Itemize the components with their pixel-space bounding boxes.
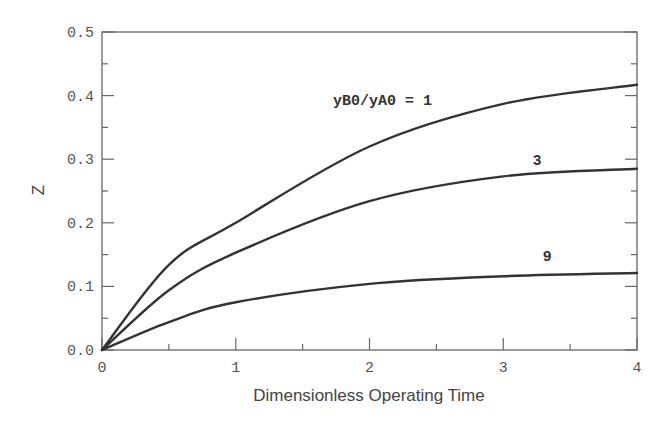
x-tick-label: 0: [97, 360, 106, 377]
x-tick-label: 2: [365, 360, 374, 377]
y-tick-label: 0.2: [67, 216, 94, 233]
y-axis-title: Z: [29, 185, 48, 195]
curve-label-9: 9: [543, 247, 551, 264]
x-axis-ticks: 01234: [97, 338, 641, 377]
y-tick-label: 0.1: [67, 279, 94, 296]
line-chart: 0.00.10.20.30.40.5 01234 yB0/yA0 = 1 3 9…: [0, 0, 661, 428]
curve-label-1: yB0/yA0 = 1: [333, 93, 432, 110]
curve-label-3: 3: [533, 151, 541, 168]
x-tick-label: 1: [231, 360, 240, 377]
x-tick-label: 3: [499, 360, 508, 377]
curve-series-2: [102, 169, 637, 350]
y-tick-label: 0.4: [67, 89, 94, 106]
y-tick-label: 0.0: [67, 343, 94, 360]
curves: [102, 85, 637, 350]
curve-series-1: [102, 85, 637, 350]
plot-frame: [102, 32, 637, 350]
x-axis-title: Dimensionless Operating Time: [253, 386, 484, 405]
x-tick-label: 4: [632, 360, 641, 377]
y-axis-ticks: 0.00.10.20.30.40.5: [67, 25, 637, 360]
y-tick-label: 0.3: [67, 152, 94, 169]
y-tick-label: 0.5: [67, 25, 94, 42]
